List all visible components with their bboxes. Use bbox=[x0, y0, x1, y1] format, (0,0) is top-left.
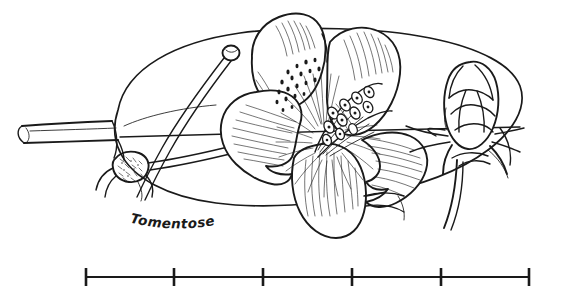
petiole-cut-end bbox=[26, 128, 29, 142]
botanical-drawing-canvas: Tomentose bbox=[0, 0, 568, 304]
stigma-knob bbox=[223, 46, 240, 61]
node-bract-left-inner bbox=[105, 176, 116, 197]
petiole-upper-edge bbox=[22, 121, 112, 126]
petiole-tip-cap bbox=[18, 126, 24, 143]
tomentose-label: Tomentose bbox=[129, 210, 216, 232]
petal-bottom-center bbox=[292, 144, 366, 238]
bract-right-low bbox=[492, 142, 520, 152]
node-bract-left bbox=[96, 168, 113, 190]
petiole-group bbox=[18, 121, 124, 160]
petiole-lower-edge bbox=[24, 140, 118, 143]
petiole-inner-channel bbox=[30, 128, 116, 131]
botanical-illustration: Tomentose bbox=[0, 0, 568, 304]
tomentose-label-group: Tomentose bbox=[128, 210, 228, 232]
tomentose-label-text: Tomentose bbox=[129, 210, 216, 232]
scale-bar-group bbox=[85, 268, 530, 286]
